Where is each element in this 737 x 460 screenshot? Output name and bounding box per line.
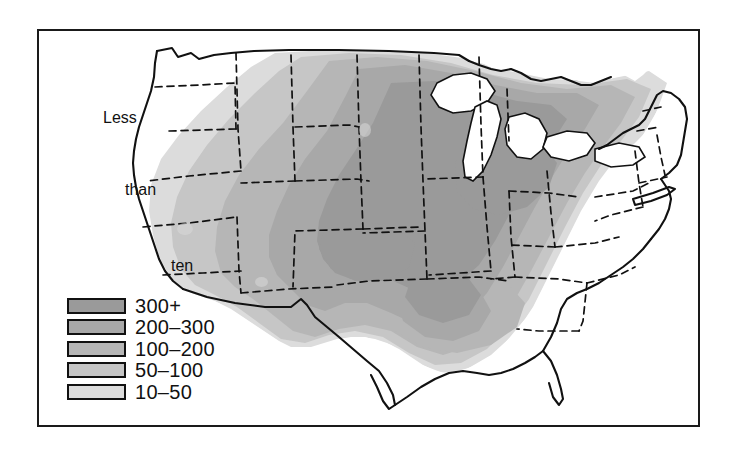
legend-label-10-50: 10–50 bbox=[135, 382, 192, 402]
annotation-line-3: ten bbox=[171, 257, 193, 275]
print-speck bbox=[177, 223, 193, 235]
legend-swatch-50-100 bbox=[67, 362, 126, 378]
legend-item: 10–50 bbox=[67, 381, 215, 403]
legend-swatch-10-50 bbox=[67, 384, 126, 400]
map-frame: Less than ten 300+ 200–300 100–200 50–10… bbox=[37, 29, 700, 427]
legend-swatch-300-plus bbox=[67, 298, 126, 314]
legend-label-100-200: 100–200 bbox=[135, 339, 215, 359]
legend-item: 50–100 bbox=[67, 360, 215, 382]
legend-item: 100–200 bbox=[67, 338, 215, 360]
legend-item: 300+ bbox=[67, 295, 215, 317]
annotation-line-1: Less bbox=[103, 109, 137, 127]
annotation-line-2: than bbox=[125, 181, 156, 199]
legend-label-300-plus: 300+ bbox=[135, 296, 181, 316]
legend-swatch-100-200 bbox=[67, 341, 126, 357]
print-speck bbox=[359, 123, 371, 137]
map-canvas: Less than ten 300+ 200–300 100–200 50–10… bbox=[39, 31, 698, 425]
legend: 300+ 200–300 100–200 50–100 10–50 bbox=[67, 295, 215, 403]
legend-item: 200–300 bbox=[67, 317, 215, 339]
legend-label-200-300: 200–300 bbox=[135, 317, 215, 337]
print-speck bbox=[255, 277, 268, 287]
legend-label-50-100: 50–100 bbox=[135, 360, 204, 380]
legend-swatch-200-300 bbox=[67, 319, 126, 335]
